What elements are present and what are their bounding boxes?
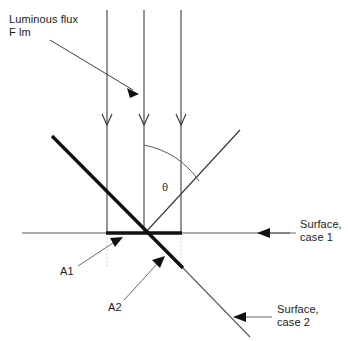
incident-ray-right bbox=[176, 10, 186, 233]
luminous-flux-pointer bbox=[50, 40, 139, 98]
surface-case2-pointer bbox=[233, 312, 272, 322]
luminous-flux-label: Luminous fluxF lm bbox=[9, 13, 78, 39]
surface-case1-label: Surface,case 1 bbox=[300, 218, 342, 244]
a1-pointer bbox=[78, 237, 123, 266]
surface-line-case2 bbox=[183, 268, 250, 337]
theta-arc bbox=[144, 145, 199, 181]
incident-ray-left bbox=[102, 10, 112, 233]
surface-case1-line1: Surface, bbox=[300, 218, 342, 230]
surface-case1-pointer bbox=[257, 228, 296, 238]
incident-ray-center bbox=[139, 10, 149, 233]
luminous-flux-line1: Luminous flux bbox=[9, 13, 78, 25]
surface-case2-label: Surface,case 2 bbox=[277, 303, 319, 329]
a2-pointer bbox=[124, 256, 165, 300]
area-a1-label: A1 bbox=[60, 265, 74, 278]
luminous-flux-line2: F lm bbox=[9, 26, 31, 38]
optics-diagram: Luminous fluxF lm θ A1 A2 Surface,case 1… bbox=[0, 0, 348, 341]
diagram-canvas bbox=[0, 0, 348, 341]
surface-case2-line1: Surface, bbox=[277, 303, 319, 315]
reflected-ray-line bbox=[145, 130, 240, 233]
theta-label: θ bbox=[162, 181, 168, 194]
surface-case2-line2: case 2 bbox=[277, 316, 310, 328]
surface-case1-line2: case 1 bbox=[300, 231, 333, 243]
area-a2-label: A2 bbox=[108, 301, 122, 314]
area-a2-segment bbox=[52, 136, 183, 268]
